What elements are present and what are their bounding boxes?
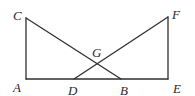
point-label-b: B xyxy=(120,83,128,96)
point-label-c: C xyxy=(13,8,22,23)
segment-df xyxy=(74,17,168,79)
labels-group: ACDBEFG xyxy=(12,7,181,96)
diagram-canvas: ACDBEFG xyxy=(0,0,195,96)
point-label-d: D xyxy=(67,83,78,96)
point-label-a: A xyxy=(12,80,21,95)
geometry-diagram: ACDBEFG xyxy=(0,0,195,96)
point-label-e: E xyxy=(172,81,181,96)
segment-cb xyxy=(26,18,121,79)
point-label-g: G xyxy=(92,45,102,60)
point-label-f: F xyxy=(171,7,181,22)
